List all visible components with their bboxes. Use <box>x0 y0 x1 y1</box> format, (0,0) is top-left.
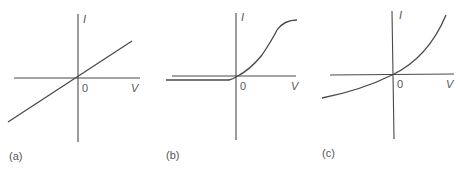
panel-b: I 0 V (b) <box>166 11 300 161</box>
origin-label: 0 <box>397 78 403 90</box>
panel-caption: (a) <box>9 150 22 162</box>
diode-iv-curve <box>166 20 297 80</box>
x-axis-label: V <box>446 78 455 90</box>
y-axis-label: I <box>83 13 86 25</box>
y-axis-label: I <box>399 9 402 21</box>
x-axis-label: V <box>131 82 140 94</box>
iv-characteristics-diagram: I 0 V (a) I 0 V (b) I 0 V (c) <box>0 0 462 174</box>
origin-label: 0 <box>82 82 88 94</box>
panel-caption: (b) <box>166 149 179 161</box>
exponential-iv-curve <box>322 15 446 98</box>
y-axis-label: I <box>241 11 244 23</box>
panel-c: I 0 V (c) <box>322 9 455 159</box>
origin-label: 0 <box>240 80 246 92</box>
x-axis-label: V <box>291 80 300 92</box>
panel-caption: (c) <box>322 147 335 159</box>
panel-a: I 0 V (a) <box>8 13 140 162</box>
linear-iv-curve <box>8 41 132 122</box>
